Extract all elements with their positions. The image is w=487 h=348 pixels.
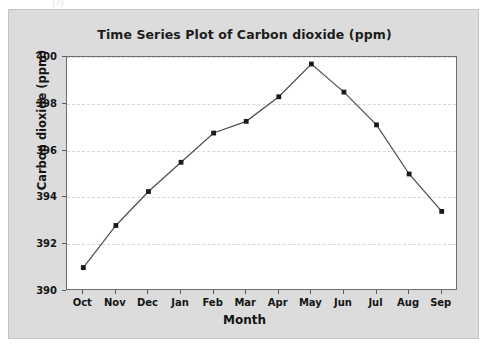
data-point-marker: Apr: 398.3: [276, 94, 281, 99]
data-point-marker: Oct: 391: [81, 265, 86, 270]
chart-title: Time Series Plot of Carbon dioxide (ppm): [9, 27, 480, 42]
data-point-marker: Jul: 397.1: [374, 122, 379, 127]
y-tick-label: 394: [23, 191, 57, 202]
x-axis-title: Month: [9, 313, 480, 327]
x-tick-mark: [310, 290, 311, 294]
y-tick-label: 396: [23, 144, 57, 155]
x-tick-mark: [82, 290, 83, 294]
data-point-marker: Aug: 395: [407, 172, 412, 177]
chart-card: Time Series Plot of Carbon dioxide (ppm)…: [8, 9, 479, 339]
x-tick-mark: [245, 290, 246, 294]
data-point-marker: Mar: 397.25: [244, 119, 249, 124]
data-point-marker: Nov: 392.8: [113, 223, 118, 228]
y-tick-label: 398: [23, 97, 57, 108]
chart-screenshot: (?) Time Series Plot of Carbon dioxide (…: [0, 0, 487, 348]
series-carbon-dioxide: Oct: 391Nov: 392.8Dec: 394.25Jan: 395.5F…: [67, 57, 458, 291]
plot-inner: Oct: 391Nov: 392.8Dec: 394.25Jan: 395.5F…: [67, 57, 456, 289]
x-tick-mark: [441, 290, 442, 294]
x-tick-mark: [278, 290, 279, 294]
gridline: [67, 291, 456, 292]
y-tick-label: 400: [23, 51, 57, 62]
data-point-marker: Feb: 396.75: [211, 131, 216, 136]
y-tick-label: 390: [23, 285, 57, 296]
data-point-marker: Dec: 394.25: [146, 189, 151, 194]
data-point-marker: Jan: 395.5: [179, 160, 184, 165]
x-tick-mark: [147, 290, 148, 294]
x-tick-mark: [180, 290, 181, 294]
x-tick-mark: [213, 290, 214, 294]
x-tick-mark: [376, 290, 377, 294]
data-point-marker: May: 399.7: [309, 62, 314, 67]
x-tick-mark: [115, 290, 116, 294]
x-tick-label: Sep: [419, 297, 463, 308]
plot-area: Oct: 391Nov: 392.8Dec: 394.25Jan: 395.5F…: [66, 56, 457, 290]
x-tick-mark: [408, 290, 409, 294]
data-point-marker: Sep: 393.4: [439, 209, 444, 214]
data-point-marker: Jun: 398.5: [342, 90, 347, 95]
series-line: [83, 64, 441, 268]
y-tick-mark: [62, 290, 66, 291]
x-tick-mark: [343, 290, 344, 294]
y-tick-label: 392: [23, 238, 57, 249]
scan-artifact-mark: (?): [52, 0, 68, 7]
